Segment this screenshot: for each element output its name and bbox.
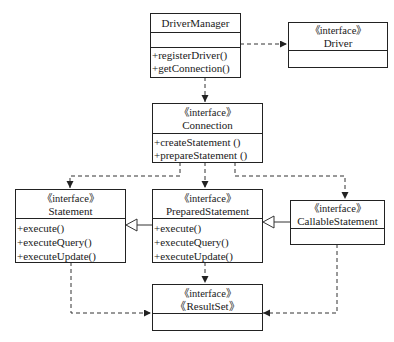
operation: +executeUpdate() xyxy=(154,249,262,263)
class-stereotype: 《interface》 xyxy=(153,106,262,119)
class-operations: +execute() +executeQuery() +executeUpdat… xyxy=(16,219,125,263)
dependency-callablestatement-resultset xyxy=(263,244,337,313)
generalization-arrow-preparedstatement xyxy=(263,216,274,228)
class-name: Driver xyxy=(289,37,387,50)
class-driver[interactable]: 《interface》 Driver xyxy=(288,22,388,68)
dependency-connection-statement xyxy=(70,162,180,188)
operation: +execute() xyxy=(154,221,262,235)
operation: +execute() xyxy=(17,221,125,235)
class-name: 《ResultSet》 xyxy=(153,300,262,313)
operation: +createStatement () xyxy=(154,136,262,149)
class-header: 《interface》 Driver xyxy=(289,23,387,51)
class-stereotype: 《interface》 xyxy=(289,24,387,37)
class-header: 《interface》 Connection xyxy=(153,104,262,134)
operation: +getConnection() xyxy=(152,62,240,75)
class-header: 《interface》 PreparedStatement xyxy=(153,190,262,219)
class-resultset[interactable]: 《interface》 《ResultSet》 xyxy=(152,284,263,331)
class-name: PreparedStatement xyxy=(153,205,262,218)
class-stereotype: 《interface》 xyxy=(153,287,262,300)
dependency-statement-resultset xyxy=(71,262,151,313)
operation: +executeUpdate() xyxy=(17,249,125,263)
class-connection[interactable]: 《interface》 Connection +createStatement … xyxy=(152,103,263,163)
class-name: CallableStatement xyxy=(291,215,384,228)
operation: +prepareStatement () xyxy=(154,149,262,162)
class-attributes xyxy=(151,33,240,48)
class-drivermanager[interactable]: DriverManager +registerDriver() +getConn… xyxy=(150,13,241,78)
class-callablestatement[interactable]: 《interface》 CallableStatement xyxy=(290,200,385,245)
class-name: DriverManager xyxy=(151,17,240,30)
class-operations: +registerDriver() +getConnection() xyxy=(151,48,240,74)
class-stereotype: 《interface》 xyxy=(291,202,384,215)
operation: +executeQuery() xyxy=(17,235,125,249)
class-stereotype: 《interface》 xyxy=(153,192,262,205)
generalization-arrow-statement xyxy=(126,219,137,231)
class-operations: +execute() +executeQuery() +executeUpdat… xyxy=(153,219,262,263)
operation: +registerDriver() xyxy=(152,49,240,62)
class-stereotype: 《interface》 xyxy=(16,192,125,205)
operation: +executeQuery() xyxy=(154,235,262,249)
class-name: Connection xyxy=(153,119,262,132)
class-header: 《interface》 Statement xyxy=(16,190,125,219)
class-header: DriverManager xyxy=(151,14,240,33)
class-header: 《interface》 CallableStatement xyxy=(291,201,384,229)
class-preparedstatement[interactable]: 《interface》 PreparedStatement +execute()… xyxy=(152,189,263,263)
class-statement[interactable]: 《interface》 Statement +execute() +execut… xyxy=(15,189,126,263)
class-header: 《interface》 《ResultSet》 xyxy=(153,285,262,314)
class-operations: +createStatement () +prepareStatement () xyxy=(153,134,262,161)
class-name: Statement xyxy=(16,205,125,218)
